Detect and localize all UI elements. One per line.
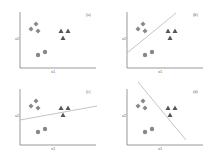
scatter-plot-a: x1x2(a) [0, 0, 107, 76]
scatter-plot-b: x1x2(b) [107, 0, 214, 76]
y-axis-label: x2 [122, 113, 127, 118]
decision-boundary-line [20, 106, 97, 120]
x-axis-label: x1 [158, 69, 163, 74]
circle-marker [43, 50, 47, 54]
triangle-marker [166, 29, 171, 34]
panel-c: x1x2(c) [0, 77, 107, 153]
triangle-marker [66, 106, 71, 111]
diamond-marker [143, 106, 148, 111]
diamond-marker [136, 27, 141, 32]
diamond-marker [29, 104, 34, 109]
panel-label: (b) [193, 12, 199, 17]
triangle-marker [173, 106, 178, 111]
circle-marker [36, 130, 40, 134]
triangle-marker [59, 106, 64, 111]
triangle-marker [166, 106, 171, 111]
diamond-marker [141, 22, 146, 27]
diamond-marker [34, 99, 39, 104]
panel-label: (a) [86, 12, 92, 17]
diamond-marker [143, 29, 148, 34]
triangle-marker [66, 29, 71, 34]
triangle-marker [59, 29, 64, 34]
diamond-marker [136, 104, 141, 109]
triangle-marker [168, 113, 173, 118]
triangle-marker [61, 36, 66, 41]
circle-marker [143, 130, 147, 134]
circle-marker [143, 53, 147, 57]
y-axis-label: x2 [15, 113, 20, 118]
circle-marker [150, 50, 154, 54]
diamond-marker [34, 22, 39, 27]
panel-label: (d) [193, 89, 199, 94]
circle-marker [43, 127, 47, 131]
scatter-plot-c: x1x2(c) [0, 77, 107, 153]
circle-marker [36, 53, 40, 57]
scatter-plot-d: x1x2(d) [107, 77, 214, 153]
triangle-marker [61, 113, 66, 118]
panel-a: x1x2(a) [0, 0, 107, 76]
x-axis-label: x1 [51, 69, 56, 74]
panel-d: x1x2(d) [107, 77, 214, 153]
diamond-marker [29, 27, 34, 32]
triangle-marker [168, 36, 173, 41]
x-axis-label: x1 [158, 146, 163, 151]
diamond-marker [36, 106, 41, 111]
y-axis-label: x2 [15, 36, 20, 41]
panel-label: (c) [86, 89, 91, 94]
y-axis-label: x2 [122, 36, 127, 41]
triangle-marker [173, 29, 178, 34]
x-axis-label: x1 [51, 146, 56, 151]
diamond-marker [141, 99, 146, 104]
diamond-marker [36, 29, 41, 34]
circle-marker [150, 127, 154, 131]
panel-b: x1x2(b) [107, 0, 214, 76]
